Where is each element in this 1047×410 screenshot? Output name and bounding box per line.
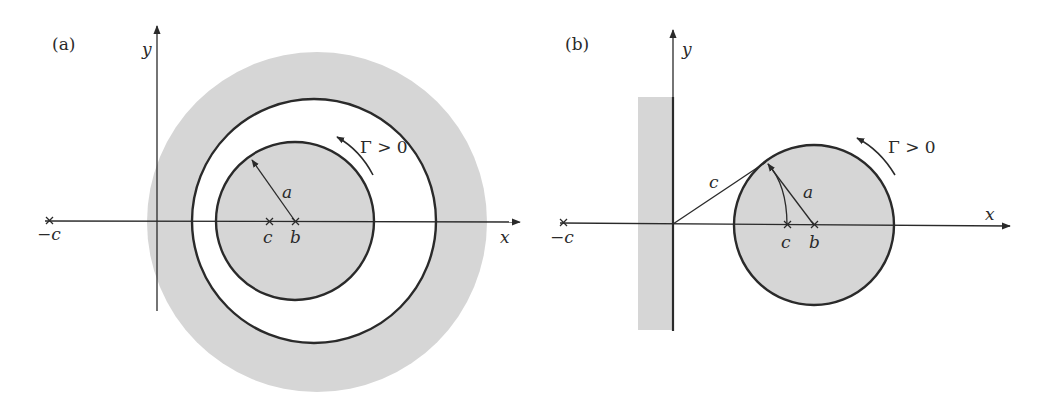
panel-b-label: (b) [565,34,589,54]
y-axis-label: y [681,39,692,59]
point-b-label: b [290,227,301,247]
point-c-label: c [781,232,791,252]
figure-canvas: (a) y x −c c b a Γ > 0 [0,0,1047,410]
circulation-label: Γ > 0 [888,137,936,157]
point-b-label: b [809,232,820,252]
y-axis-label: y [141,39,152,59]
radius-a-label: a [282,182,292,202]
panel-a: (a) y x −c c b a Γ > 0 [37,26,520,392]
radius-a-label: a [803,182,813,202]
point-neg-c-label: −c [550,227,574,247]
panel-b: (b) y x −c c b a c Γ > 0 [550,30,1010,331]
x-axis-label: x [500,227,510,247]
point-c-label: c [263,227,273,247]
wall-shaded-strip [638,97,673,330]
point-neg-c-label: −c [37,224,61,244]
circulation-label: Γ > 0 [360,137,408,157]
x-axis-label: x [985,204,995,224]
tangent-c-label: c [709,172,719,192]
panel-a-label: (a) [52,34,75,54]
